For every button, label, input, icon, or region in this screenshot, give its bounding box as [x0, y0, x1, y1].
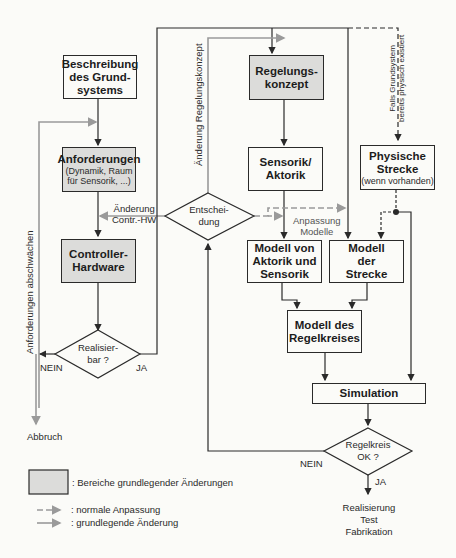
label-ja-realisierbar: JA	[136, 362, 147, 373]
decision-entscheidung-text: Entschei- dung	[181, 204, 237, 228]
label-anpassung-modelle: Anpassung Modelle	[293, 215, 341, 237]
node-modell-strecke: Modell der Strecke	[329, 240, 404, 283]
node-regelungskonzept: Regelungs- konzept	[249, 55, 324, 100]
label-anforderungen-abschwaechen: Anforderungen abschwächen	[24, 230, 35, 354]
label-nein-regelkreis: NEIN	[300, 458, 323, 469]
label-aenderung-regelungskonzept: Änderung Regelungskonzept	[193, 43, 204, 166]
legend-grey-text: : Bereiche grundlegender Änderungen	[72, 477, 233, 488]
label-nein-realisierbar: NEIN	[40, 362, 63, 373]
node-beschreibung: Beschreibung des Grund- systems	[63, 55, 137, 99]
legend-solid-text: : grundlegende Änderung	[71, 517, 178, 528]
decision-realisierbar-text: Realisier- bar ?	[70, 342, 126, 366]
legend-grey-swatch	[29, 470, 68, 494]
legend-dashed-text: : normale Anpassung	[71, 504, 160, 515]
label-result: Realisierung Test Fabrikation	[333, 502, 405, 538]
node-physische-strecke: Physische Strecke (wenn vorhanden)	[360, 145, 435, 190]
node-simulation: Simulation	[312, 383, 426, 404]
decision-regelkreis-text: Regelkreis OK ?	[340, 439, 396, 463]
node-anforderungen: Anforderungen (Dynamik, Raum für Sensori…	[62, 147, 136, 192]
label-ja-regelkreis: JA	[375, 476, 386, 487]
label-abbruch: Abbruch	[27, 431, 62, 442]
node-controller-hardware: Controller- Hardware	[61, 239, 136, 283]
node-modell-aktorik-sensorik: Modell von Aktorik und Sensorik	[247, 240, 322, 283]
node-sensorik-aktorik: Sensorik/ Aktorik	[248, 147, 323, 191]
label-aenderung-contr-hw: Änderung Contr.-HW	[112, 203, 156, 225]
label-falls-grundsystem: Falls Grundsystem bereits physisch exist…	[388, 35, 406, 122]
node-modell-regelkreis: Modell des Regelkreises	[287, 310, 362, 353]
